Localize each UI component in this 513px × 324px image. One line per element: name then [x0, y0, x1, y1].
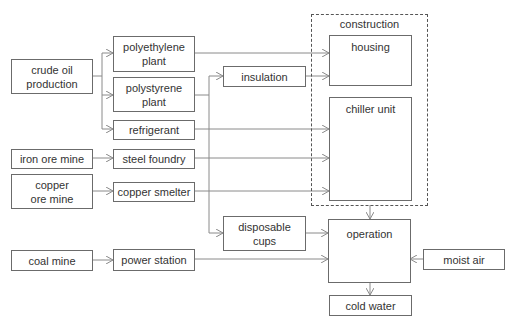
node-copper-smelter: copper smelter — [113, 182, 195, 202]
node-chiller-unit: chiller unit — [329, 97, 412, 201]
node-polystyrene-plant: polystyrene plant — [113, 77, 195, 112]
node-cold-water: cold water — [329, 295, 412, 316]
node-copper-ore-mine: copper ore mine — [11, 174, 93, 209]
node-housing: housing — [329, 35, 412, 86]
node-coal-mine: coal mine — [11, 250, 93, 271]
node-refrigerant: refrigerant — [113, 120, 195, 140]
node-moist-air: moist air — [423, 249, 505, 270]
node-iron-ore-mine: iron ore mine — [11, 149, 93, 169]
node-polyethylene-plant: polyethylene plant — [113, 36, 195, 72]
node-disposable-cups: disposable cups — [223, 216, 306, 251]
node-power-station: power station — [113, 249, 195, 271]
node-steel-foundry: steel foundry — [113, 149, 195, 169]
node-operation: operation — [328, 219, 411, 283]
node-insulation: insulation — [223, 66, 306, 87]
node-crude-oil-production: crude oil production — [11, 59, 93, 94]
construction-label: construction — [312, 18, 427, 30]
